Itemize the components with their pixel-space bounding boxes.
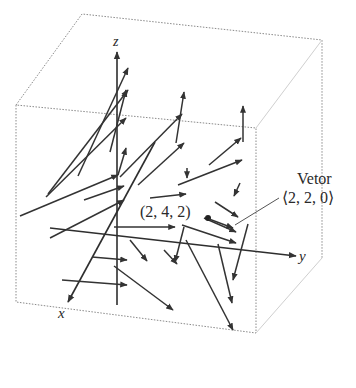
- vector-arrow: [92, 257, 127, 260]
- vector-arrow: [176, 92, 184, 143]
- vector-arrow: [234, 183, 240, 196]
- vector-arrow: [84, 186, 124, 200]
- vector-arrow: [218, 244, 232, 303]
- y-axis-label: y: [297, 248, 306, 264]
- vector-arrow: [118, 148, 126, 175]
- vector-arrow: [114, 266, 173, 310]
- vector-field-figure: z y x (2, 4, 2) Vetor ⟨2, 2, 0⟩: [0, 0, 356, 388]
- vector-arrow: [78, 68, 128, 176]
- leader-line: [235, 198, 279, 225]
- vector-arrow: [46, 118, 126, 197]
- vector-arrow: [138, 143, 184, 185]
- vector-arrow: [164, 250, 177, 264]
- box-front-face: [16, 105, 256, 333]
- vector-arrow: [175, 227, 184, 262]
- vector-field-svg: z y x (2, 4, 2) Vetor ⟨2, 2, 0⟩: [0, 0, 356, 388]
- box-back-edges: [16, 14, 322, 258]
- box-bottom-right-edge: [256, 258, 322, 333]
- vector-arrow: [48, 90, 128, 194]
- vector-arrow: [150, 194, 186, 198]
- vector-arrow: [215, 202, 238, 217]
- vector-arrows: [20, 68, 248, 330]
- vector-title-label: Vetor: [297, 170, 332, 187]
- box-top-right-edge: [256, 40, 322, 128]
- y-axis: [50, 228, 296, 256]
- vector-arrow: [209, 138, 241, 165]
- vector-value-label: ⟨2, 2, 0⟩: [282, 189, 334, 206]
- axes: [50, 52, 296, 305]
- vector-arrow: [186, 240, 233, 330]
- bounding-box: [16, 14, 322, 333]
- vector-2-2-0-arrow: [209, 219, 233, 228]
- z-axis-label: z: [112, 34, 119, 49]
- point-label: (2, 4, 2): [140, 203, 191, 221]
- vector-arrow: [130, 240, 147, 261]
- x-axis-label: x: [57, 305, 65, 321]
- vector-arrow: [120, 114, 182, 177]
